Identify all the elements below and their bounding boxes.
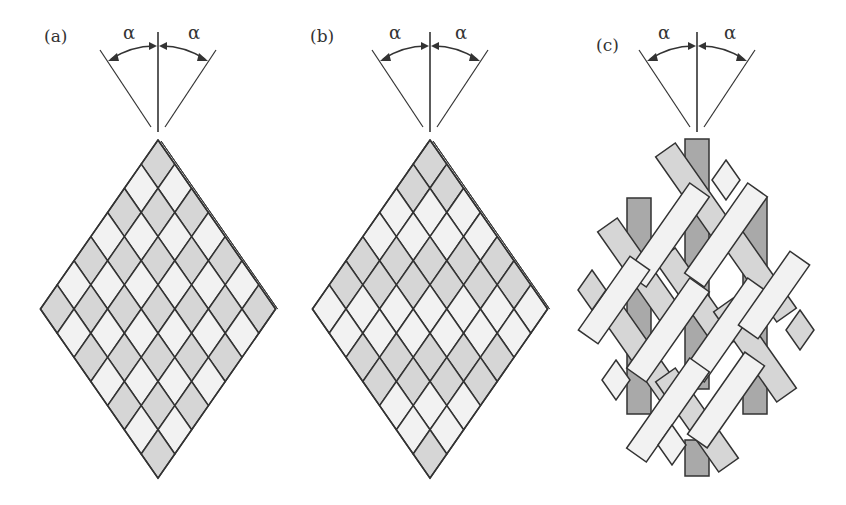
panel-a: (a) α α: [0, 0, 282, 505]
panel-c: (c) α α: [564, 0, 846, 505]
braid-diagram-b: [282, 0, 564, 505]
panel-b: (b) α α: [282, 0, 564, 505]
braid-diagram-a: [0, 0, 282, 505]
braid-diagram-c: [564, 0, 846, 505]
